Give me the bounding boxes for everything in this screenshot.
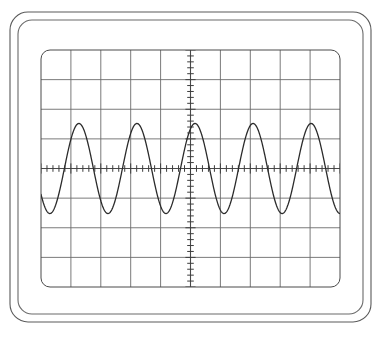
- oscilloscope-screenshot: [0, 0, 386, 337]
- oscilloscope-display: [0, 0, 386, 337]
